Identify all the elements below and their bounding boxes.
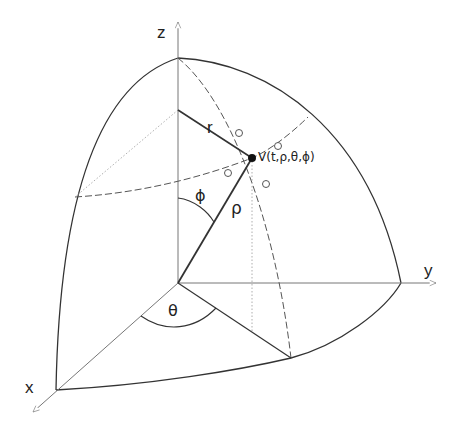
z-axis-label: z xyxy=(157,23,166,42)
theta-label: θ xyxy=(168,301,178,320)
x-axis xyxy=(33,283,178,412)
r-label: r xyxy=(207,118,213,137)
sphere-outline xyxy=(56,58,401,390)
point-v-label: V(t,ρ,θ,ϕ) xyxy=(258,150,315,164)
dotted-guides xyxy=(75,110,252,332)
phi-label: ϕ xyxy=(195,186,206,205)
projection-segment xyxy=(178,283,291,358)
x-axis-label: x xyxy=(25,378,34,397)
point-v xyxy=(248,154,256,162)
spherical-coordinates-diagram: z y x r ρ ϕ θ V(t,ρ,θ,ϕ) xyxy=(0,0,459,427)
rho-segment xyxy=(178,158,252,283)
theta-arc xyxy=(141,308,216,327)
rho-label: ρ xyxy=(231,198,242,218)
y-axis-label: y xyxy=(424,261,433,280)
